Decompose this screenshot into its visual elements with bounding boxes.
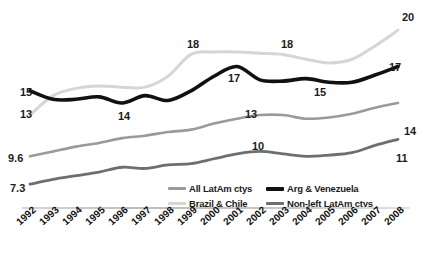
label-all-latam-2002: 13 xyxy=(245,108,257,120)
legend-item-arg-venezuela[interactable]: Arg & Venezuela xyxy=(266,182,396,195)
label-all-latam-end: 14 xyxy=(404,125,416,137)
series-line-brazil-chile xyxy=(30,30,398,115)
legend-item-all-latam-ctys[interactable]: All LatAm ctys xyxy=(168,182,254,195)
chart-figure: 13 18 18 20 15 14 17 15 17 9.6 13 14 7.3… xyxy=(0,0,430,269)
label-brazil-chile-2003: 18 xyxy=(281,38,293,50)
label-all-latam-start: 9.6 xyxy=(8,152,23,164)
legend-swatch-icon xyxy=(168,202,186,205)
label-arg-venezuela-2005: 15 xyxy=(314,86,326,98)
series-layer xyxy=(30,30,398,184)
label-arg-venezuela-2001: 17 xyxy=(228,72,240,84)
label-brazil-chile-1999: 18 xyxy=(187,38,199,50)
legend-swatch-icon xyxy=(266,187,284,191)
series-line-arg-venezuela xyxy=(30,66,398,102)
label-arg-venezuela-end: 17 xyxy=(389,61,401,73)
label-nonleft-latam-end: 11 xyxy=(396,152,408,164)
label-arg-venezuela-1996: 14 xyxy=(118,110,130,122)
label-nonleft-latam-start: 7.3 xyxy=(10,182,25,194)
label-arg-venezuela-start: 15 xyxy=(20,86,32,98)
x-axis-tick-labels: 1992199319941995199619971998199920002001… xyxy=(0,213,430,269)
label-nonleft-latam-2002: 10 xyxy=(252,140,264,152)
series-line-all-latam-ctys xyxy=(30,103,398,156)
chart-legend: All LatAm ctysArg & VenezuelaBrazil & Ch… xyxy=(168,182,424,210)
legend-item-label: Arg & Venezuela xyxy=(287,183,358,194)
legend-item-label: All LatAm ctys xyxy=(189,183,252,194)
legend-swatch-icon xyxy=(168,187,186,190)
label-brazil-chile-start: 13 xyxy=(20,108,32,120)
label-brazil-chile-end: 20 xyxy=(402,11,414,23)
